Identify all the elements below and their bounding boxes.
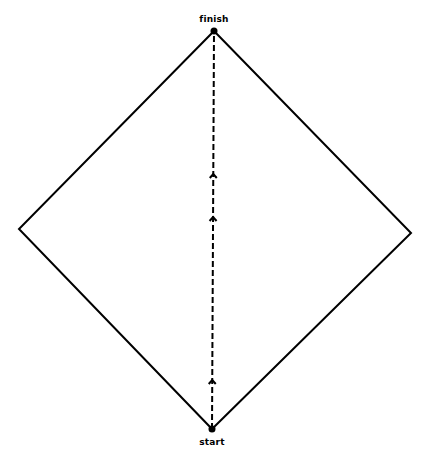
start-node-dot [209,426,216,433]
start-label: start [199,437,224,447]
dashed-path-start-to-finish [212,31,214,429]
finish-label: finish [199,14,228,24]
diagram-canvas [0,0,426,465]
finish-node-dot [211,28,218,35]
diamond-outline [19,31,411,429]
